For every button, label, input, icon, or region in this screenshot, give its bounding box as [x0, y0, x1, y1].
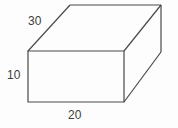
rectangular-prism-drawing: [0, 0, 178, 128]
depth-edge-right: [124, 5, 161, 51]
rectangular-prism-figure: 30 10 20: [0, 0, 178, 128]
depth-dimension-label: 30: [28, 15, 42, 27]
width-dimension-label: 20: [68, 109, 82, 121]
height-dimension-label: 10: [7, 69, 21, 81]
front-face-outline: [28, 51, 124, 102]
depth-edge-left: [28, 5, 70, 51]
depth-edge-bottom-right: [124, 52, 161, 102]
